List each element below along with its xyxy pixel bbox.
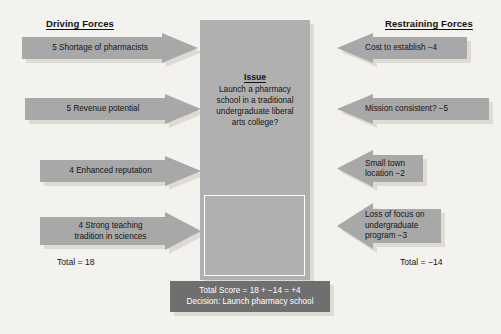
restraining-force-arrow-2[interactable]: Mission consistent? −5: [337, 94, 489, 124]
driving-force-arrow-3[interactable]: 4 Enhanced reputation: [40, 156, 201, 186]
decision-line: Decision: Launch pharmacy school: [187, 297, 314, 308]
restraining-force-label-4: Loss of focus on undergraduate program −…: [365, 210, 435, 242]
issue-inner-border: [204, 195, 305, 276]
driving-force-arrow-1[interactable]: 5 Shortage of pharmacists: [22, 33, 198, 63]
restraining-force-label-1: Cost to establish −4: [365, 43, 461, 54]
restraining-forces-header: Restraining Forces: [385, 18, 473, 29]
total-score-line: Total Score = 18 + −14 = +4: [199, 286, 300, 297]
driving-force-label-1: 5 Shortage of pharmacists: [28, 43, 172, 54]
issue-body: Launch a pharmacy school in a traditiona…: [216, 85, 293, 127]
restraining-forces-total: Total = −14: [400, 257, 443, 267]
issue-title: Issue: [203, 72, 307, 83]
restraining-force-arrow-1[interactable]: Cost to establish −4: [337, 33, 467, 63]
restraining-force-label-3: Small town location −2: [365, 158, 417, 179]
issue-box: Issue Launch a pharmacy school in a trad…: [200, 20, 310, 280]
issue-text-block: Issue Launch a pharmacy school in a trad…: [203, 72, 307, 128]
driving-forces-total: Total = 18: [57, 257, 95, 267]
restraining-force-label-2: Mission consistent? −5: [365, 104, 483, 115]
restraining-force-arrow-3[interactable]: Small town location −2: [337, 150, 423, 187]
driving-force-arrow-2[interactable]: 5 Revenue potential: [25, 94, 201, 124]
driving-force-label-2: 5 Revenue potential: [31, 104, 175, 115]
restraining-force-arrow-4[interactable]: Loss of focus on undergraduate program −…: [337, 203, 441, 249]
score-decision-box: Total Score = 18 + −14 = +4 Decision: La…: [170, 281, 330, 312]
driving-forces-header: Driving Forces: [46, 18, 114, 29]
driving-force-label-4: 4 Strong teaching tradition in sciences: [46, 221, 175, 242]
force-field-diagram: Driving Forces 5 Shortage of pharmacists…: [0, 0, 501, 334]
driving-force-arrow-4[interactable]: 4 Strong teaching tradition in sciences: [40, 212, 201, 250]
driving-force-label-3: 4 Enhanced reputation: [46, 166, 175, 177]
